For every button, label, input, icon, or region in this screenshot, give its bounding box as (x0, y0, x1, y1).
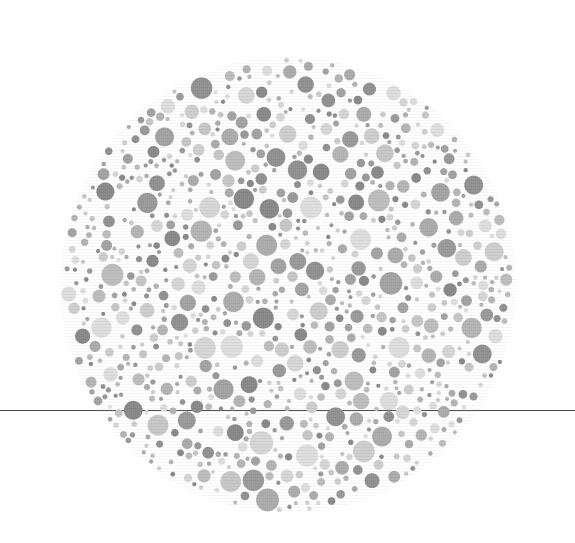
plate-dot-canvas (60, 57, 516, 513)
ishihara-plate (60, 57, 516, 513)
plate-stage (0, 0, 575, 543)
